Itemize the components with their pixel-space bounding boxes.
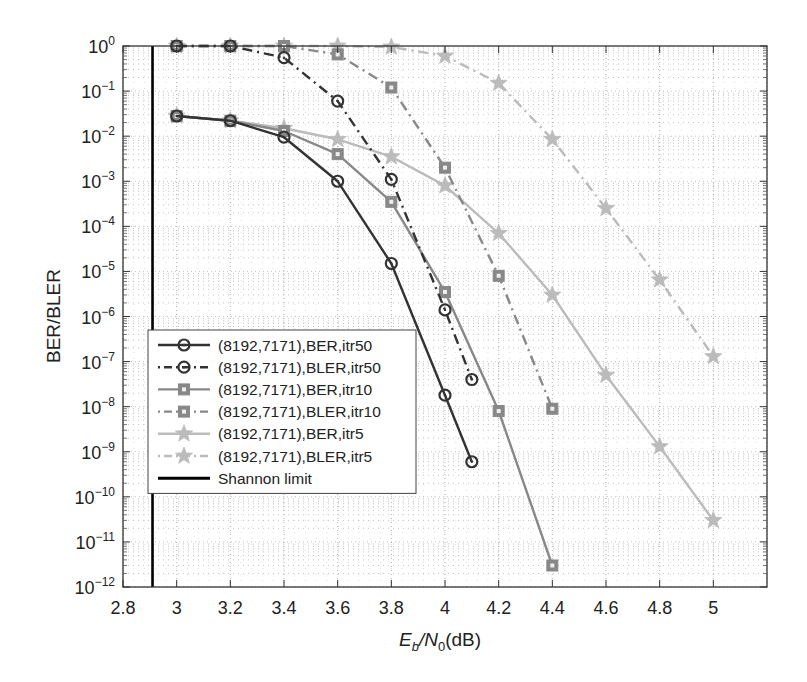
y-tick-label: 10−11 bbox=[76, 530, 116, 553]
y-tick-label: 10−8 bbox=[81, 395, 115, 418]
x-tick-label: 4.8 bbox=[647, 598, 672, 618]
y-tick-label: 10−6 bbox=[81, 305, 115, 328]
x-tick-label: 4.4 bbox=[540, 598, 565, 618]
legend-label: (8192,7171),BLER,itr50 bbox=[218, 359, 381, 376]
x-tick-label: 4.2 bbox=[486, 598, 511, 618]
legend-label: Shannon limit bbox=[218, 470, 313, 487]
y-tick-label: 10−7 bbox=[81, 350, 115, 373]
x-tick-label: 3.8 bbox=[379, 598, 404, 618]
legend: (8192,7171),BER,itr50(8192,7171),BLER,it… bbox=[148, 330, 416, 493]
ber-bler-chart: 2.833.23.43.63.844.24.44.64.85 10010−110… bbox=[0, 0, 807, 682]
y-tick-label: 10−5 bbox=[81, 259, 115, 282]
x-tick-label: 3.6 bbox=[325, 598, 350, 618]
x-tick-label: 3.2 bbox=[218, 598, 243, 618]
y-axis-title: BER/BLER bbox=[43, 269, 64, 363]
legend-label: (8192,7171),BLER,itr10 bbox=[218, 403, 381, 420]
y-tick-label: 10−3 bbox=[81, 169, 115, 192]
y-tick-label: 100 bbox=[88, 34, 115, 57]
y-tick-label: 10−1 bbox=[81, 79, 115, 102]
y-tick-label: 10−2 bbox=[81, 124, 115, 147]
y-tick-labels: 10010−110−210−310−410−510−610−710−810−91… bbox=[75, 34, 116, 598]
x-tick-label: 3 bbox=[172, 598, 182, 618]
y-tick-label: 10−10 bbox=[75, 485, 116, 508]
x-tick-label: 2.8 bbox=[110, 598, 135, 618]
x-tick-label: 4.6 bbox=[593, 598, 618, 618]
legend-label: (8192,7171),BER,itr50 bbox=[218, 337, 373, 354]
x-tick-label: 3.4 bbox=[271, 598, 296, 618]
x-tick-labels: 2.833.23.43.63.844.24.44.64.85 bbox=[110, 598, 718, 618]
y-tick-label: 10−9 bbox=[81, 440, 115, 463]
legend-label: (8192,7171),BLER,itr5 bbox=[218, 448, 372, 465]
legend-label: (8192,7171),BER,itr10 bbox=[218, 381, 373, 398]
y-tick-label: 10−4 bbox=[81, 214, 115, 237]
x-tick-label: 5 bbox=[708, 598, 718, 618]
x-tick-label: 4 bbox=[440, 598, 450, 618]
legend-label: (8192,7171),BER,itr5 bbox=[218, 425, 364, 442]
x-axis-title: Eb/N0(dB) bbox=[399, 629, 481, 654]
y-tick-label: 10−12 bbox=[75, 575, 116, 598]
